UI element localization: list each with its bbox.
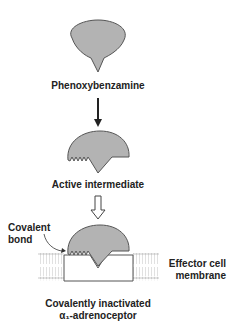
membrane-line2: membrane (164, 270, 226, 282)
receptor-line1: Covalently inactivated (40, 298, 156, 310)
pointer-head-icon (61, 248, 66, 253)
active-intermediate-shape (68, 131, 129, 173)
arrow-head-icon (94, 119, 102, 127)
label-inactivated-receptor: Covalently inactivated α₁-adrenoceptor (40, 298, 156, 322)
covalent-line2: bond (8, 234, 50, 246)
label-covalent-bond: Covalent bond (8, 222, 50, 246)
phenoxybenzamine-shape (71, 20, 126, 72)
membrane-line1: Effector cell (164, 258, 226, 270)
covalent-line1: Covalent (8, 222, 50, 234)
label-membrane: Effector cell membrane (164, 258, 226, 282)
label-active-intermediate: Active intermediate (40, 179, 156, 191)
arrow-hollow (91, 196, 105, 219)
label-phenoxybenzamine: Phenoxybenzamine (48, 80, 148, 92)
receptor-line2: α₁-adrenoceptor (40, 310, 156, 322)
